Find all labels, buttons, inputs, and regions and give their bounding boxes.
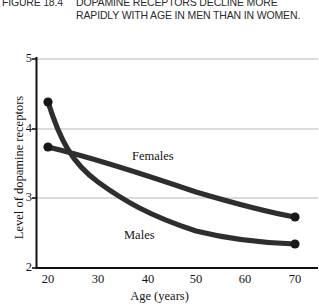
series-females-end-marker [290,212,299,221]
series-males [43,97,299,248]
x-tick-label-20: 20 [33,272,63,287]
x-tick-label-60: 60 [230,272,260,287]
series-females-start-marker [43,142,52,151]
y-axis-title: Level of dopamine receptors [12,63,27,273]
x-tick-label-40: 40 [133,272,163,287]
x-axis-title: Age (years) [0,289,319,304]
series-males-start-marker [43,97,52,106]
series-label-females: Females [132,149,174,164]
x-tick-label-50: 50 [181,272,211,287]
series-males-end-marker [290,239,299,248]
chart-plot-area: 5 4 3 2 20 30 40 50 60 70 Level of dopam… [0,0,319,308]
gridlines [36,59,318,198]
x-tick-label-70: 70 [280,272,310,287]
x-tick-label-30: 30 [83,272,113,287]
series-label-males: Males [124,228,155,243]
